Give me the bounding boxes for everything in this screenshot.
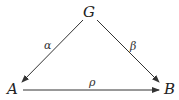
edge-label-beta: β [129,40,136,53]
arrow-g-to-b [97,20,159,82]
node-b: B [163,80,175,98]
commutative-diagram: G A B α β ρ [0,0,179,100]
edge-label-rho: ρ [88,76,96,89]
node-a: A [5,80,18,98]
edge-label-alpha: α [44,39,52,52]
arrow-g-to-a [22,20,83,82]
node-g: G [83,3,95,21]
